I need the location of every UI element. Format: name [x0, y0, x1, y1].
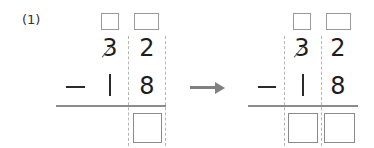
borrow-box-tens[interactable] [101, 13, 119, 30]
subtrahend-tens-digit [302, 74, 304, 96]
subtrahend-ones-digit: 8 [327, 74, 349, 98]
problem-number-label: (1) [22, 12, 40, 27]
borrow-box-tens[interactable] [293, 13, 311, 30]
answer-box-ones[interactable] [133, 113, 162, 143]
sum-line [248, 105, 358, 107]
answer-box-tens[interactable] [288, 113, 318, 143]
minuend-ones-digit: 2 [136, 36, 158, 60]
answer-box-ones[interactable] [324, 113, 355, 143]
column-guide-right [321, 36, 322, 146]
minus-sign [66, 86, 85, 88]
minuend-ones-digit: 2 [327, 36, 349, 60]
column-guide-left [284, 36, 285, 146]
subtrahend-tens-digit [109, 74, 111, 96]
column-guide-left [128, 36, 129, 146]
sum-line [56, 105, 166, 107]
minus-sign [258, 86, 276, 88]
borrow-box-ones[interactable] [134, 13, 159, 30]
subtrahend-ones-digit: 8 [136, 74, 158, 98]
borrow-box-ones[interactable] [326, 13, 351, 30]
column-guide-right [165, 36, 166, 146]
